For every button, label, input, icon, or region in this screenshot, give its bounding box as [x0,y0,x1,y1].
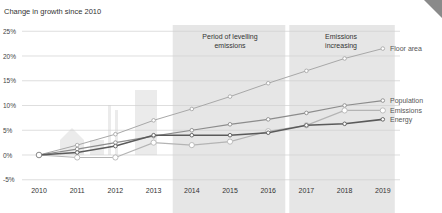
data-point [381,99,385,103]
data-point [189,143,194,148]
data-point [190,107,194,111]
data-point [343,57,347,61]
data-point [114,144,118,148]
data-point [227,139,232,144]
data-point [114,132,118,136]
data-point [266,81,270,85]
background-buildings-illustration [60,90,157,155]
annotation-label: Emissions [325,33,357,40]
annotation-label: Period of levelling [202,33,257,41]
y-tick-label: 15% [3,77,16,84]
x-tick-label: 2014 [184,187,200,194]
x-tick-label: 2012 [108,187,124,194]
shaded-periods [173,25,395,213]
x-tick-label: 2011 [70,187,85,194]
data-point [380,108,385,113]
y-tick-label: 5% [3,127,13,134]
legend-label: Energy [390,116,413,124]
data-point [190,128,194,132]
data-point [305,111,309,115]
data-point [152,133,156,137]
y-tick-label: 10% [3,102,16,109]
x-tick-label: 2015 [222,187,238,194]
data-point [75,143,79,147]
x-tick-label: 2017 [299,187,315,194]
data-point [305,69,309,73]
data-point [75,155,80,160]
data-point [190,133,194,137]
y-tick-label: 0% [3,152,13,159]
legend-label: Emissions [390,107,422,114]
legend-label: Floor area [390,45,422,52]
data-point [113,155,118,160]
y-tick-label: 25% [3,28,16,35]
data-point [381,47,385,51]
data-point [152,119,156,123]
chart-title: Change in growth since 2010 [4,7,101,16]
data-point [75,151,79,155]
legend-labels: Floor areaPopulationEmissionsEnergy [390,45,423,125]
data-point [228,123,232,127]
shaded-band [289,25,395,213]
y-tick-label: -5% [3,176,15,183]
legend-label: Population [390,97,423,105]
data-point [305,124,309,128]
data-point [266,118,270,122]
x-tick-label: 2016 [260,187,276,194]
annotation-label: increasing [325,42,357,50]
data-point [228,95,232,99]
corner-triangle-decoration [424,0,442,18]
data-point [343,104,347,108]
x-tick-label: 2018 [337,187,353,194]
y-tick-label: 20% [3,53,16,60]
annotation-label: emissions [214,42,246,49]
data-point [381,118,385,122]
y-axis-labels: -5%0%5%10%15%20%25% [3,28,16,184]
data-point [151,140,156,145]
x-tick-label: 2019 [375,187,391,194]
data-point [266,131,270,135]
data-point [342,108,347,113]
line-chart: -5%0%5%10%15%20%25% 20102011201220132014… [0,0,442,213]
data-point [228,133,232,137]
data-point [343,122,347,126]
x-tick-label: 2013 [146,187,162,194]
origin-point [36,152,42,158]
x-tick-label: 2010 [31,187,47,194]
